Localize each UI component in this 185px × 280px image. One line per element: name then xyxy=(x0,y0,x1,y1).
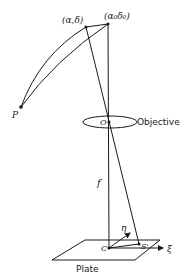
pole-point xyxy=(19,105,23,109)
diagram-canvas: (α,δ) (α₀δ₀) P O Objective f C S' η ξ Pl… xyxy=(0,0,185,280)
label-plate: Plate xyxy=(76,264,99,274)
label-eta-axis: η xyxy=(121,223,127,233)
plate-center-point xyxy=(107,23,110,26)
star-point xyxy=(85,26,88,29)
label-pole: P xyxy=(11,110,19,120)
label-plate-center-point: (α₀δ₀) xyxy=(104,11,130,21)
label-focal-length: f xyxy=(96,177,103,188)
label-star-image: S' xyxy=(141,242,149,251)
plate-center-c-point xyxy=(107,246,110,249)
label-objective-center: O xyxy=(100,118,107,127)
label-plate-center: C xyxy=(101,244,107,253)
label-star-point: (α,δ) xyxy=(62,15,84,25)
label-objective: Objective xyxy=(137,117,180,127)
objective-center-point xyxy=(108,121,111,124)
label-xi-axis: ξ xyxy=(167,244,173,254)
star-ray xyxy=(86,27,139,244)
optical-axis xyxy=(108,24,109,248)
